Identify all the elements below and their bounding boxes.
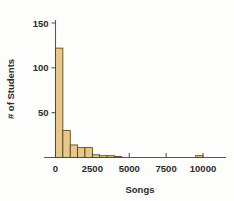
histogram-plot: 50100150 025005000750010000 # of Student… — [0, 0, 234, 201]
x-tick-label: 7500 — [156, 163, 177, 174]
y-tick-label: 150 — [33, 18, 49, 29]
x-axis-title: Songs — [125, 184, 154, 195]
x-tick-label: 5000 — [119, 163, 140, 174]
x-tick-label: 0 — [53, 163, 58, 174]
histogram-bar — [85, 148, 92, 158]
x-tick-label: 2500 — [82, 163, 103, 174]
histogram-bar — [92, 155, 99, 158]
histogram-bar — [115, 157, 122, 158]
y-axis-ticks: 50100150 — [33, 18, 56, 119]
y-tick-label: 100 — [33, 62, 49, 73]
histogram-bars — [56, 48, 204, 157]
histogram-bar — [78, 148, 85, 158]
histogram-bar — [63, 131, 70, 158]
histogram-bar — [107, 156, 114, 158]
histogram-figure: 50100150 025005000750010000 # of Student… — [0, 0, 234, 201]
histogram-bar — [100, 156, 107, 158]
histogram-bar — [56, 48, 63, 157]
y-tick-label: 50 — [38, 107, 49, 118]
histogram-bar — [70, 145, 77, 158]
x-tick-label: 10000 — [190, 163, 216, 174]
histogram-bar — [196, 156, 203, 158]
y-axis-title: # of Students — [5, 59, 16, 119]
